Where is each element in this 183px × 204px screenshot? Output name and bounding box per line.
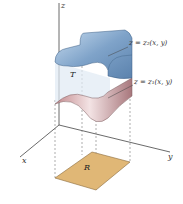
x-axis-label: x <box>22 156 27 165</box>
region-r <box>55 152 130 190</box>
z-axis-label: z <box>61 1 65 10</box>
solid-label: T <box>70 70 75 79</box>
lower-surface-label: z = z₁(x, y) <box>134 78 172 86</box>
diagram: z x y T R z = z₂(x, y) z = z₁(x, y) <box>0 0 183 204</box>
upper-surface-label: z = z₂(x, y) <box>129 39 167 47</box>
x-axis <box>20 125 59 157</box>
y-axis <box>59 125 170 152</box>
y-axis-label: y <box>168 152 173 161</box>
region-label: R <box>84 163 90 172</box>
solid-region-diagram <box>0 0 183 204</box>
